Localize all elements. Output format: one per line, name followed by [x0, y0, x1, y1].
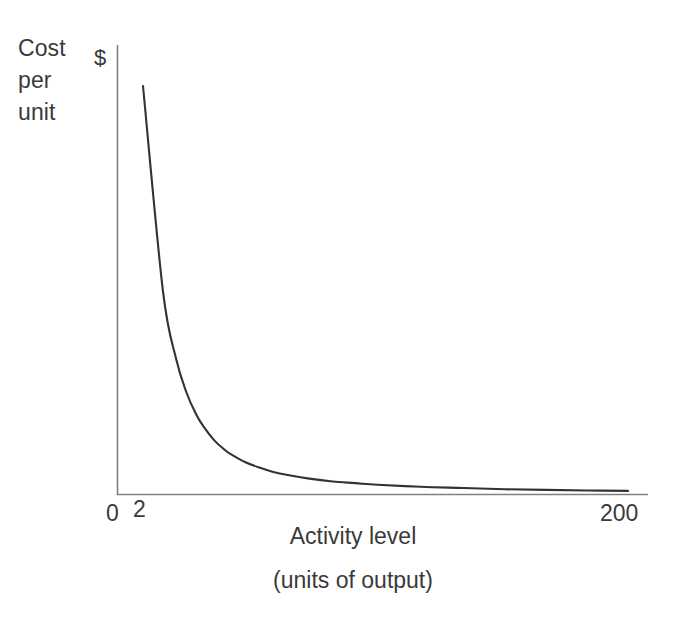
cost-per-unit-chart: Cost per unit $ 0 2 200 Activity level (… [0, 0, 682, 628]
cost-per-unit-curve [143, 86, 628, 491]
axis-origin-label: 0 [106, 500, 119, 527]
y-axis-title-line-3: unit [18, 96, 98, 128]
y-axis-unit-label: $ [94, 45, 106, 71]
x-axis-title-line-1: Activity level [141, 514, 565, 558]
y-axis-title-line-1: Cost [18, 32, 98, 64]
x-axis-tick-label-max: 200 [600, 500, 638, 527]
y-axis-title: Cost per unit [18, 32, 98, 128]
x-axis-title-line-2: (units of output) [141, 558, 565, 602]
y-axis-title-line-2: per [18, 64, 98, 96]
x-axis-title: Activity level (units of output) [141, 514, 565, 602]
